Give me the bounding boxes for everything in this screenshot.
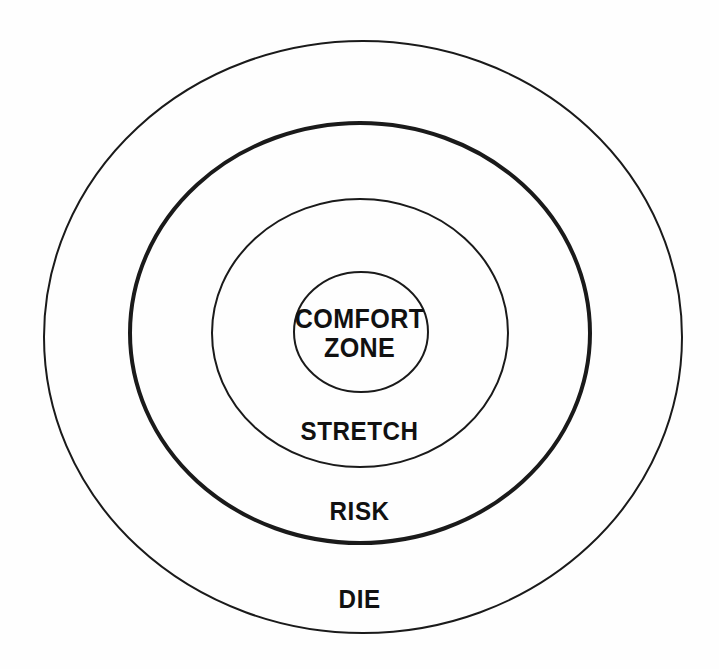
zone-label-die: DIE	[25, 586, 694, 614]
comfort-zone-diagram: COMFORT ZONE STRETCH RISK DIE	[0, 0, 719, 669]
zone-label-stretch: STRETCH	[25, 418, 694, 446]
zone-label-comfort-zone: COMFORT ZONE	[25, 305, 694, 362]
zone-label-risk: RISK	[25, 498, 694, 526]
